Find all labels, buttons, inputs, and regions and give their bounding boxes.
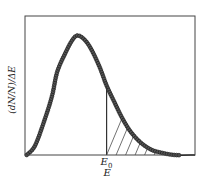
hatch-line	[116, 128, 127, 155]
data-markers	[25, 34, 181, 157]
y-axis-label: (dN/N)/ΔE	[2, 55, 22, 125]
hatch-line	[107, 118, 123, 155]
hatch-line	[135, 143, 140, 155]
plot-frame	[25, 16, 195, 155]
x-axis-label: E	[104, 167, 111, 178]
hatch-line	[126, 136, 134, 155]
